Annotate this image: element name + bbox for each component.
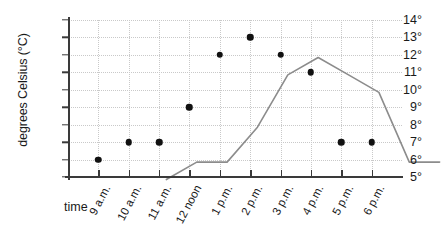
y-axis-tick-label: 12° — [388, 48, 422, 62]
y-axis-tick-label: 6° — [388, 153, 422, 167]
y-axis-tick-mark — [62, 124, 68, 125]
y-axis-tick-mark — [62, 107, 68, 108]
y-axis-tick-mark — [62, 159, 68, 160]
y-axis-tick-mark — [62, 72, 68, 73]
y-axis-tick-mark — [62, 37, 68, 38]
gridline-vertical — [98, 20, 99, 177]
y-axis-tick-label: 9° — [388, 100, 422, 114]
x-axis-tick-mark — [372, 170, 373, 177]
x-axis-tick-label: 10 a.m. — [115, 183, 144, 223]
data-point — [186, 104, 193, 111]
data-point — [95, 156, 102, 163]
data-point — [308, 69, 315, 76]
data-point — [277, 52, 284, 59]
y-axis-tick-label: 10° — [388, 83, 422, 97]
y-axis-tick-label: 7° — [388, 135, 422, 149]
gridline-horizontal — [68, 20, 402, 21]
y-axis-tick-mark — [62, 54, 68, 55]
x-axis-tick-mark — [220, 170, 221, 177]
y-axis-tick-label: 8° — [388, 118, 422, 132]
x-axis-title: time — [64, 200, 88, 214]
data-point — [156, 139, 163, 146]
y-axis-tick-mark — [62, 176, 68, 177]
y-axis-title: degrees Celsius (°C) — [16, 10, 30, 170]
y-axis-tick-label: 5° — [388, 170, 422, 184]
x-axis-line — [65, 176, 403, 178]
x-axis-tick-mark — [189, 170, 190, 177]
data-point — [338, 139, 345, 146]
x-axis-tick-mark — [159, 170, 160, 177]
x-axis-tick-label: 9 a.m. — [87, 183, 113, 217]
x-axis-tick-mark — [129, 170, 130, 177]
gridline-vertical — [129, 20, 130, 177]
y-axis-tick-mark — [62, 141, 68, 142]
y-axis-tick-mark — [62, 89, 68, 90]
y-axis-tick-label: 11° — [388, 65, 422, 79]
y-axis-tick-label: 14° — [388, 13, 422, 27]
data-point — [247, 34, 254, 41]
x-axis-tick-mark — [341, 170, 342, 177]
x-axis-tick-mark — [281, 170, 282, 177]
x-axis-tick-mark — [311, 170, 312, 177]
y-axis-tick-label: 13° — [388, 30, 422, 44]
x-axis-tick-mark — [98, 170, 99, 177]
plot-area — [68, 20, 402, 177]
y-axis-line — [68, 17, 70, 180]
data-point — [217, 52, 224, 59]
x-axis-tick-mark — [250, 170, 251, 177]
data-point — [125, 139, 132, 146]
y-axis-tick-mark — [62, 19, 68, 20]
gridline-horizontal — [68, 37, 402, 38]
data-point — [368, 139, 375, 146]
